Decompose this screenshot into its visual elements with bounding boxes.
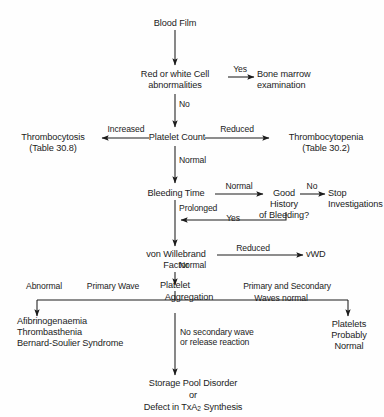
- edge-label-normal-history: Normal: [225, 181, 252, 191]
- edge-label-abnormal: Abnormal: [26, 281, 62, 291]
- edge-label-increased: Increased: [108, 124, 145, 134]
- edge-label-yes-bone-marrow: Yes: [233, 64, 247, 74]
- node-good-history-of-bleeding: Good History of Bleeding?: [259, 188, 309, 221]
- edge-label-reduced-vwf: Reduced: [236, 243, 270, 253]
- edge-label-primary-wave: Primary Wave: [87, 281, 139, 291]
- bottom-outcome-txa-prefix: Defect in TxA: [144, 402, 198, 412]
- node-bleeding-time: Bleeding Time: [148, 188, 205, 199]
- edge-label-primary-and-secondary: Primary and Secondary: [243, 281, 331, 291]
- node-blood-film: Blood Film: [154, 18, 196, 29]
- node-right-outcome: Platelets Probably Normal: [331, 319, 366, 352]
- node-stop-investigations: Stop Investigations: [328, 188, 383, 210]
- node-cell-abnormalities: Red or white Cell abnormalities: [141, 69, 209, 91]
- edge-label-normal-vwf: Normal: [179, 260, 206, 270]
- node-left-outcome: Afibrinogenaemia Thrombasthenia Bernard-…: [17, 316, 123, 349]
- node-thrombocytosis: Thrombocytosis (Table 30.8): [21, 132, 84, 154]
- edge-label-no-stop: No: [307, 181, 318, 191]
- node-vwd: vWD: [306, 249, 326, 260]
- flowchart-figure: Blood Film Red or white Cell abnormaliti…: [0, 0, 384, 417]
- node-bottom-outcome-line2: or: [189, 390, 197, 401]
- edge-label-no-platelet-count: No: [179, 99, 190, 109]
- edge-label-normal-bleeding-time: Normal: [179, 155, 206, 165]
- node-bone-marrow-examination: Bone marrow examination: [257, 69, 311, 91]
- edge-label-yes-loopback: Yes: [226, 213, 240, 223]
- edge-label-waves-normal: Waves normal: [254, 293, 307, 303]
- edge-label-no-secondary-wave: No secondary wave or release reaction: [180, 327, 254, 347]
- node-platelet-aggregation-line2: Aggregation: [165, 292, 213, 303]
- node-platelet-count: Platelet Count: [149, 132, 205, 143]
- bottom-outcome-txa-suffix: Synthesis: [201, 402, 242, 412]
- edge-label-prolonged: Prolonged: [179, 203, 217, 213]
- node-thrombocytopenia: Thrombocytopenia (Table 30.2): [289, 132, 364, 154]
- node-bottom-outcome-line1: Storage Pool Disorder: [149, 378, 237, 389]
- edge-label-reduced-platelet: Reduced: [220, 124, 254, 134]
- node-bottom-outcome-line3: Defect in TxA2 Synthesis: [144, 402, 243, 413]
- node-platelet-aggregation-line1: Platelet: [160, 280, 190, 291]
